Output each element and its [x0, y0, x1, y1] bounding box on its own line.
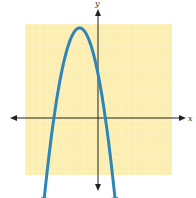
x-axis-label: x — [188, 114, 193, 123]
y-axis-label: y — [94, 0, 100, 8]
parabola-graph: x y — [0, 0, 196, 198]
